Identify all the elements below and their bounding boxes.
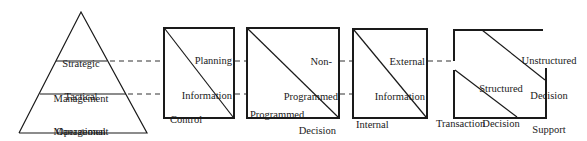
label-line: Transaction <box>436 118 500 130</box>
transaction-processing-label: Transaction Processing <box>436 95 500 141</box>
label-line: Non- <box>282 56 338 68</box>
label-line: Tactical <box>36 91 126 103</box>
programmed-decision-label: Programmed Decision Making <box>250 86 310 141</box>
label-line: Control <box>170 114 230 126</box>
level-operational-label: Operational Management <box>36 103 126 141</box>
internal-information-label: Internal Information <box>356 96 416 141</box>
label-line: Operational <box>36 126 126 138</box>
label-line: External <box>370 56 425 68</box>
label-line: Programmed <box>250 109 310 121</box>
label-line: Planning <box>180 55 232 67</box>
control-information-label: Control Information <box>170 91 230 141</box>
label-line: Internal <box>356 119 416 131</box>
label-line: Structured <box>470 83 532 95</box>
